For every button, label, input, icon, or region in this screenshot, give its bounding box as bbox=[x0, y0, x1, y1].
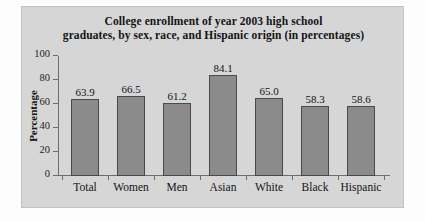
x-label-black: Black bbox=[302, 181, 329, 193]
y-tick-label-80: 80 bbox=[40, 72, 51, 83]
chart-title-line-1: College enrollment of year 2003 high sch… bbox=[22, 14, 405, 28]
x-tick-4 bbox=[246, 176, 247, 180]
x-label-hispanic: Hispanic bbox=[341, 181, 382, 193]
category-slot-white: 65.0 White bbox=[246, 56, 292, 176]
x-tick-0 bbox=[62, 176, 63, 180]
y-tick-40: 40 bbox=[53, 127, 58, 128]
chart-figure: College enrollment of year 2003 high sch… bbox=[0, 0, 425, 221]
y-tick-label-0: 0 bbox=[45, 168, 50, 179]
x-label-asian: Asian bbox=[210, 181, 237, 193]
bar-value-hispanic: 58.6 bbox=[351, 93, 370, 105]
bar-value-total: 63.9 bbox=[75, 86, 94, 98]
y-tick-label-100: 100 bbox=[34, 48, 50, 59]
y-tick-0: 0 bbox=[53, 175, 58, 176]
bar-value-black: 58.3 bbox=[305, 93, 324, 105]
chart-title: College enrollment of year 2003 high sch… bbox=[22, 14, 405, 42]
bar-value-asian: 84.1 bbox=[213, 62, 232, 74]
x-tick-3 bbox=[200, 176, 201, 180]
x-tick-6 bbox=[338, 176, 339, 180]
y-tick-20: 20 bbox=[53, 151, 58, 152]
category-slot-women: 66.5 Women bbox=[108, 56, 154, 176]
y-tick-label-20: 20 bbox=[40, 144, 51, 155]
bar-value-women: 66.5 bbox=[121, 83, 140, 95]
bar-men[interactable]: 61.2 bbox=[163, 103, 191, 176]
bar-asian[interactable]: 84.1 bbox=[209, 75, 237, 176]
chart-panel: College enrollment of year 2003 high sch… bbox=[21, 6, 404, 208]
x-tick-7 bbox=[384, 176, 385, 180]
y-tick-60: 60 bbox=[53, 103, 58, 104]
plot-area: 0 20 40 60 80 100 bbox=[58, 56, 390, 176]
y-tick-label-60: 60 bbox=[40, 96, 51, 107]
y-tick-label-40: 40 bbox=[40, 120, 51, 131]
category-slot-total: 63.9 Total bbox=[62, 56, 108, 176]
bar-hispanic[interactable]: 58.6 bbox=[347, 106, 375, 176]
x-tick-1 bbox=[108, 176, 109, 180]
x-label-men: Men bbox=[166, 181, 187, 193]
x-label-total: Total bbox=[73, 181, 96, 193]
y-tick-100: 100 bbox=[53, 55, 58, 56]
y-axis-line bbox=[58, 56, 59, 176]
category-slot-asian: 84.1 Asian bbox=[200, 56, 246, 176]
y-axis-title-label: Percentage bbox=[27, 90, 39, 142]
x-label-women: Women bbox=[113, 181, 148, 193]
chart-title-line-2: graduates, by sex, race, and Hispanic or… bbox=[22, 28, 405, 42]
x-tick-2 bbox=[154, 176, 155, 180]
bar-value-men: 61.2 bbox=[167, 90, 186, 102]
x-label-white: White bbox=[255, 181, 283, 193]
category-slot-men: 61.2 Men bbox=[154, 56, 200, 176]
bar-white[interactable]: 65.0 bbox=[255, 98, 283, 176]
bar-total[interactable]: 63.9 bbox=[71, 99, 99, 176]
bar-women[interactable]: 66.5 bbox=[117, 96, 145, 176]
bar-value-white: 65.0 bbox=[259, 85, 278, 97]
y-tick-80: 80 bbox=[53, 79, 58, 80]
bar-black[interactable]: 58.3 bbox=[301, 106, 329, 176]
category-slot-hispanic: 58.6 Hispanic bbox=[338, 56, 384, 176]
y-axis-title: Percentage bbox=[26, 56, 40, 176]
category-slot-black: 58.3 Black bbox=[292, 56, 338, 176]
x-tick-5 bbox=[292, 176, 293, 180]
